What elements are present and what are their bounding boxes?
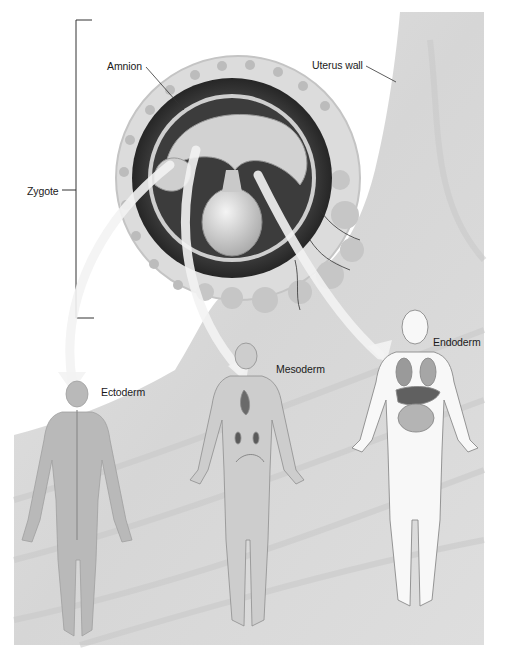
endoderm-label: Endoderm	[433, 336, 481, 348]
amnion-label: Amnion	[107, 60, 142, 72]
uterus-wall-label: Uterus wall	[312, 59, 363, 71]
ectoderm-label: Ectoderm	[101, 386, 145, 398]
mesoderm-label: Mesoderm	[276, 363, 325, 375]
illustration-canvas	[0, 0, 508, 663]
zygote-label: Zygote	[27, 185, 59, 197]
germ-layer-diagram: Amnion Uterus wall Zygote Ectoderm Mesod…	[0, 0, 508, 663]
